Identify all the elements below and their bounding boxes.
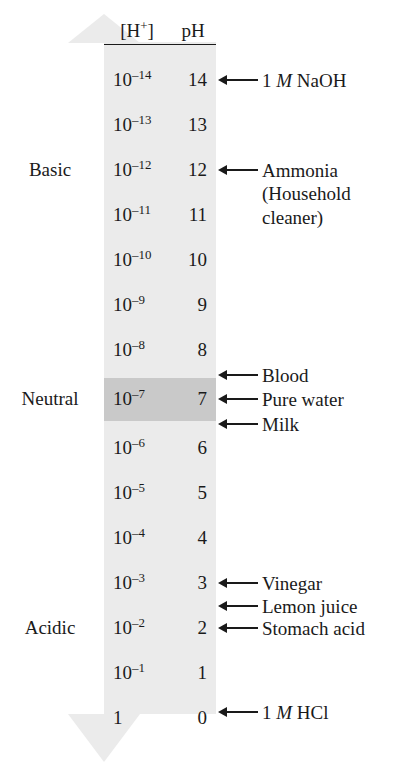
region-label-acidic: Acidic	[0, 616, 100, 640]
callout-label: Milk	[258, 413, 299, 436]
cell-ph: 5	[170, 481, 216, 505]
callout-label: Blood	[258, 364, 308, 387]
table-row: 10–4 4	[0, 526, 405, 550]
cell-concentration: 10–4	[104, 526, 170, 550]
callout-blood: Blood	[218, 363, 308, 387]
cell-ph: 8	[170, 338, 216, 362]
cell-ph: 13	[170, 113, 216, 137]
conc-base: 10	[113, 339, 132, 360]
cell-concentration: 10–1	[104, 661, 170, 685]
callout-ammonia-line2: (Household	[262, 182, 351, 205]
callout-label: Lemon juice	[258, 595, 358, 618]
header-conc-superscript: +	[140, 18, 147, 33]
conc-exponent: –12	[132, 157, 151, 172]
conc-exponent: –5	[132, 480, 145, 495]
conc-base: 10	[113, 159, 132, 180]
callout-ammonia: Ammonia	[218, 158, 338, 182]
cell-concentration: 10–10	[104, 248, 170, 272]
conc-exponent: –14	[132, 67, 151, 82]
table-row: 10–3 3	[0, 571, 405, 595]
callout-label: Pure water	[258, 388, 344, 411]
cell-concentration: 10–2	[104, 616, 170, 640]
callout-pre: 1	[262, 702, 276, 723]
conc-base: 10	[113, 204, 132, 225]
table-row: 10–11 11	[0, 203, 405, 227]
left-arrow-icon	[218, 600, 258, 612]
conc-base: 10	[113, 662, 132, 683]
left-arrow-icon	[218, 418, 258, 430]
cell-concentration: 10–11	[104, 203, 170, 227]
callout-hcl: 1 M HCl	[218, 700, 329, 724]
conc-base: 1	[113, 707, 123, 728]
conc-exponent: –13	[132, 112, 151, 127]
table-row: 10–5 5	[0, 481, 405, 505]
left-arrow-icon	[218, 622, 258, 634]
conc-exponent: –9	[132, 292, 145, 307]
table-row: 10–9 9	[0, 293, 405, 317]
cell-ph: 7	[170, 387, 216, 411]
callout-naoh: 1 M NaOH	[218, 68, 346, 92]
region-label-basic: Basic	[0, 158, 100, 182]
cell-ph: 3	[170, 571, 216, 595]
cell-ph: 0	[170, 706, 216, 730]
cell-ph: 9	[170, 293, 216, 317]
cell-ph: 12	[170, 158, 216, 182]
conc-exponent: –4	[132, 525, 145, 540]
conc-exponent: –7	[132, 386, 145, 401]
region-label-neutral: Neutral	[0, 387, 100, 411]
left-arrow-icon	[218, 393, 258, 405]
cell-ph: 2	[170, 616, 216, 640]
callout-stomach-acid: Stomach acid	[218, 616, 365, 640]
callout-pre: 1	[262, 70, 276, 91]
conc-exponent: –11	[132, 202, 151, 217]
callout-post: HCl	[292, 702, 328, 723]
callout-pure-water: Pure water	[218, 387, 344, 411]
conc-base: 10	[113, 114, 132, 135]
table-row: 10–1 1	[0, 661, 405, 685]
left-arrow-icon	[218, 164, 258, 176]
conc-base: 10	[113, 482, 132, 503]
cell-concentration: 10–8	[104, 338, 170, 362]
cell-ph: 14	[170, 68, 216, 92]
left-arrow-icon	[218, 369, 258, 381]
conc-base: 10	[113, 388, 132, 409]
callout-italic: M	[276, 702, 292, 723]
callout-label: 1 M HCl	[258, 701, 329, 724]
callout-label: Stomach acid	[258, 617, 365, 640]
cell-concentration: 10–5	[104, 481, 170, 505]
table-row: 10–13 13	[0, 113, 405, 137]
cell-concentration: 10–14	[104, 68, 170, 92]
conc-exponent: –2	[132, 615, 145, 630]
callout-post: NaOH	[292, 70, 346, 91]
conc-exponent: –6	[132, 435, 145, 450]
table-row: 10–6 6	[0, 436, 405, 460]
cell-ph: 10	[170, 248, 216, 272]
header-ph-label: pH	[170, 20, 216, 45]
cell-ph: 4	[170, 526, 216, 550]
callout-vinegar: Vinegar	[218, 571, 322, 595]
conc-base: 10	[113, 527, 132, 548]
cell-concentration: 1	[104, 706, 170, 730]
left-arrow-icon	[218, 577, 258, 589]
conc-exponent: –10	[132, 247, 151, 262]
cell-ph: 1	[170, 661, 216, 685]
conc-base: 10	[113, 617, 132, 638]
header-conc-base: [H	[120, 20, 140, 41]
table-row: 10–8 8	[0, 338, 405, 362]
table-row: 10–10 10	[0, 248, 405, 272]
conc-exponent: –3	[132, 570, 145, 585]
cell-concentration: 10–7	[104, 387, 170, 411]
conc-exponent: –1	[132, 660, 145, 675]
conc-exponent: –8	[132, 337, 145, 352]
table-row: 1 0	[0, 706, 405, 730]
callout-label: Vinegar	[258, 572, 322, 595]
cell-concentration: 10–3	[104, 571, 170, 595]
conc-base: 10	[113, 69, 132, 90]
column-header-concentration: [H+]	[104, 20, 170, 45]
left-arrow-icon	[218, 706, 258, 718]
conc-base: 10	[113, 437, 132, 458]
conc-base: 10	[113, 294, 132, 315]
header-conc-tail: ]	[148, 20, 154, 41]
column-header-ph: pH	[170, 20, 216, 45]
left-arrow-icon	[218, 74, 258, 86]
